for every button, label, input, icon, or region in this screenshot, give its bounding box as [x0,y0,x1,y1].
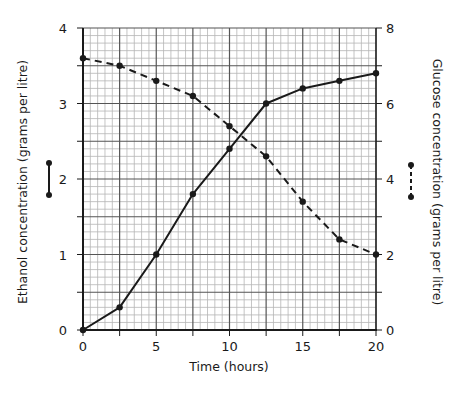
ethanol-legend-key-icon [46,160,52,198]
glucose-data-point [300,198,306,204]
glucose-data-point [226,123,232,129]
ethanol-data-point [300,85,306,91]
ethanol-data-point [80,327,86,333]
left-y-axis-title: Ethanol concentration (grams per litre) [15,60,30,304]
tick-labels: 012340246805101520 [59,21,395,354]
ethanol-data-point [263,100,269,106]
x-axis-title: Time (hours) [188,359,268,374]
left-y-tick-label: 0 [59,323,67,338]
ethanol-data-point [336,78,342,84]
ethanol-data-point [226,146,232,152]
glucose-data-point [190,93,196,99]
right-y-tick-label: 0 [386,323,394,338]
left-y-tick-label: 2 [59,172,67,187]
ethanol-data-point [153,251,159,257]
glucose-data-point [153,78,159,84]
ethanol-data-point [190,191,196,197]
right-y-axis-title: Glucose concentration (grams per litre) [430,59,445,306]
x-tick-label: 0 [79,339,87,354]
x-tick-label: 10 [221,339,238,354]
x-tick-label: 20 [368,339,385,354]
left-y-tick-label: 1 [59,248,67,263]
left-y-tick-label: 3 [59,97,67,112]
glucose-data-point [373,251,379,257]
glucose-data-point [263,153,269,159]
glucose-data-point [336,236,342,242]
left-y-tick-label: 4 [59,21,67,36]
glucose-data-point [80,55,86,61]
right-y-tick-label: 2 [386,248,394,263]
ethanol-data-point [373,70,379,76]
ethanol-data-point [116,304,122,310]
x-tick-label: 5 [152,339,160,354]
right-y-tick-label: 4 [386,172,394,187]
x-tick-label: 15 [294,339,311,354]
right-y-tick-label: 6 [386,97,394,112]
glucose-legend-key-icon [408,162,414,200]
glucose-data-point [116,63,122,69]
right-y-tick-label: 8 [386,21,394,36]
dual-axis-line-chart: 012340246805101520 Time (hours) Ethanol … [0,0,459,401]
